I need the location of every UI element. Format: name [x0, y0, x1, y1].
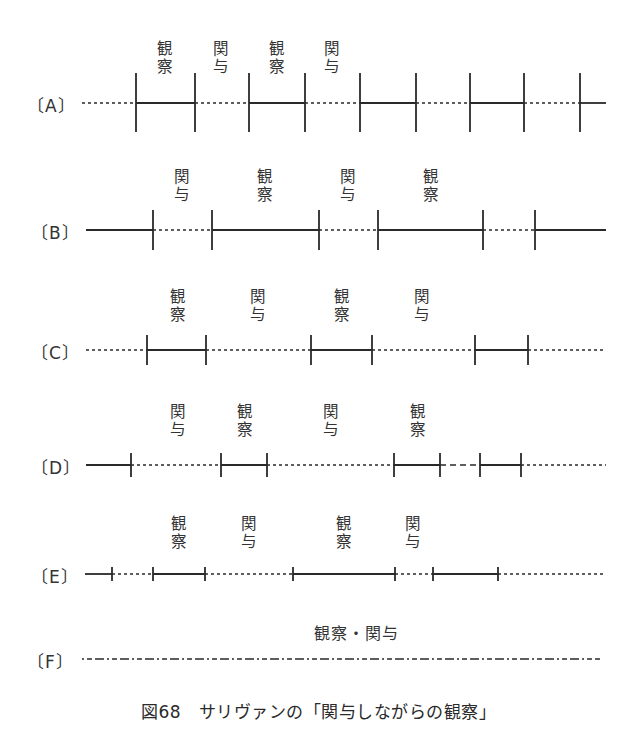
participate-label: 関与 — [413, 288, 431, 324]
label-char: 察 — [422, 186, 440, 204]
label-char: 与 — [212, 58, 230, 76]
participate-label: 関与 — [339, 168, 357, 204]
label-char: 観 — [422, 168, 440, 186]
label-char: 与 — [323, 58, 341, 76]
row-label-b: 〔B〕 — [31, 219, 80, 244]
timeline-row-a — [82, 73, 606, 132]
row-label-a: 〔A〕 — [27, 92, 76, 117]
observe-participate-label: 観察・関与 — [314, 620, 399, 644]
label-char: 与 — [339, 186, 357, 204]
label-char: 観 — [409, 403, 427, 421]
participate-label: 関与 — [212, 40, 230, 76]
label-char: 関 — [413, 288, 431, 306]
label-char: 察 — [335, 533, 353, 551]
label-char: 観 — [156, 40, 174, 58]
label-char: 察 — [169, 306, 187, 324]
timeline-row-e — [85, 567, 606, 581]
observe-label: 観察 — [236, 403, 254, 439]
label-char: 観 — [335, 515, 353, 533]
label-char: 察 — [256, 186, 274, 204]
observe-label: 観察 — [170, 515, 188, 551]
participate-label: 関与 — [240, 515, 258, 551]
label-char: 関 — [240, 515, 258, 533]
row-label-c: 〔C〕 — [31, 339, 80, 364]
observe-label: 観察 — [256, 168, 274, 204]
observe-label: 観察 — [169, 288, 187, 324]
observe-label: 観察 — [333, 288, 351, 324]
participate-label: 関与 — [323, 40, 341, 76]
label-char: 与 — [413, 306, 431, 324]
label-char: 与 — [404, 533, 422, 551]
label-char: 関 — [169, 403, 187, 421]
label-char: 察 — [409, 421, 427, 439]
label-char: 観 — [170, 515, 188, 533]
label-char: 関 — [173, 168, 191, 186]
timeline-row-d — [86, 453, 606, 477]
label-char: 察 — [268, 58, 286, 76]
label-char: 与 — [173, 186, 191, 204]
participate-label: 関与 — [169, 403, 187, 439]
label-char: 観 — [333, 288, 351, 306]
observe-label: 観察 — [422, 168, 440, 204]
observe-label: 観察 — [409, 403, 427, 439]
row-label-f: 〔F〕 — [27, 648, 74, 673]
label-char: 観 — [236, 403, 254, 421]
observe-label: 観察 — [268, 40, 286, 76]
label-char: 与 — [169, 421, 187, 439]
figure-caption: 図68 サリヴァンの「関与しながらの観察」 — [0, 698, 637, 723]
label-char: 観 — [256, 168, 274, 186]
timeline-row-b — [86, 210, 606, 250]
label-char: 与 — [249, 306, 267, 324]
label-char: 関 — [322, 403, 340, 421]
label-char: 関 — [404, 515, 422, 533]
observe-label: 観察 — [335, 515, 353, 551]
label-char: 察 — [236, 421, 254, 439]
label-char: 関 — [339, 168, 357, 186]
participate-label: 関与 — [322, 403, 340, 439]
row-label-e: 〔E〕 — [31, 563, 79, 588]
label-char: 観 — [268, 40, 286, 58]
label-char: 察 — [333, 306, 351, 324]
observe-label: 観察 — [156, 40, 174, 76]
label-char: 与 — [322, 421, 340, 439]
label-char: 観 — [169, 288, 187, 306]
row-label-d: 〔D〕 — [31, 454, 81, 479]
label-char: 関 — [323, 40, 341, 58]
label-char: 察 — [156, 58, 174, 76]
timeline-row-c — [86, 335, 606, 365]
label-char: 関 — [249, 288, 267, 306]
label-char: 与 — [240, 533, 258, 551]
participate-label: 関与 — [404, 515, 422, 551]
participate-label: 関与 — [173, 168, 191, 204]
label-char: 関 — [212, 40, 230, 58]
label-char: 察 — [170, 533, 188, 551]
participate-label: 関与 — [249, 288, 267, 324]
